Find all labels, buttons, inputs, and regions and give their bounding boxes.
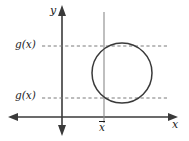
x-axis-left-arrow-icon [8,113,18,121]
y-axis-down-arrow-icon [58,125,66,136]
g-of-x-label-lower: g(x) [15,90,36,101]
g-of-x-label-upper: g(x) [15,39,36,50]
circle-curve [92,43,152,103]
math-figure: y x g(x) g(x) x [0,0,189,141]
x-bar-tick-label-text: x [99,121,105,133]
x-bar-tick-label: x [99,121,105,133]
figure-canvas [0,0,189,141]
x-axis-label: x [172,119,178,130]
y-axis-up-arrow-icon [58,5,66,16]
y-axis-label: y [50,5,56,16]
